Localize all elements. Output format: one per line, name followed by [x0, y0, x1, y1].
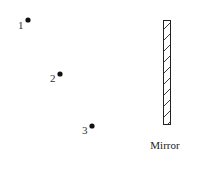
point-3-label: 3 [82, 125, 88, 136]
point-1-dot [25, 17, 30, 22]
point-2-label: 2 [50, 73, 56, 84]
mirror-label: Mirror [145, 139, 185, 151]
point-1-label: 1 [18, 20, 24, 31]
point-2-dot [57, 71, 62, 76]
mirror [163, 21, 171, 130]
point-3-dot [89, 123, 94, 128]
